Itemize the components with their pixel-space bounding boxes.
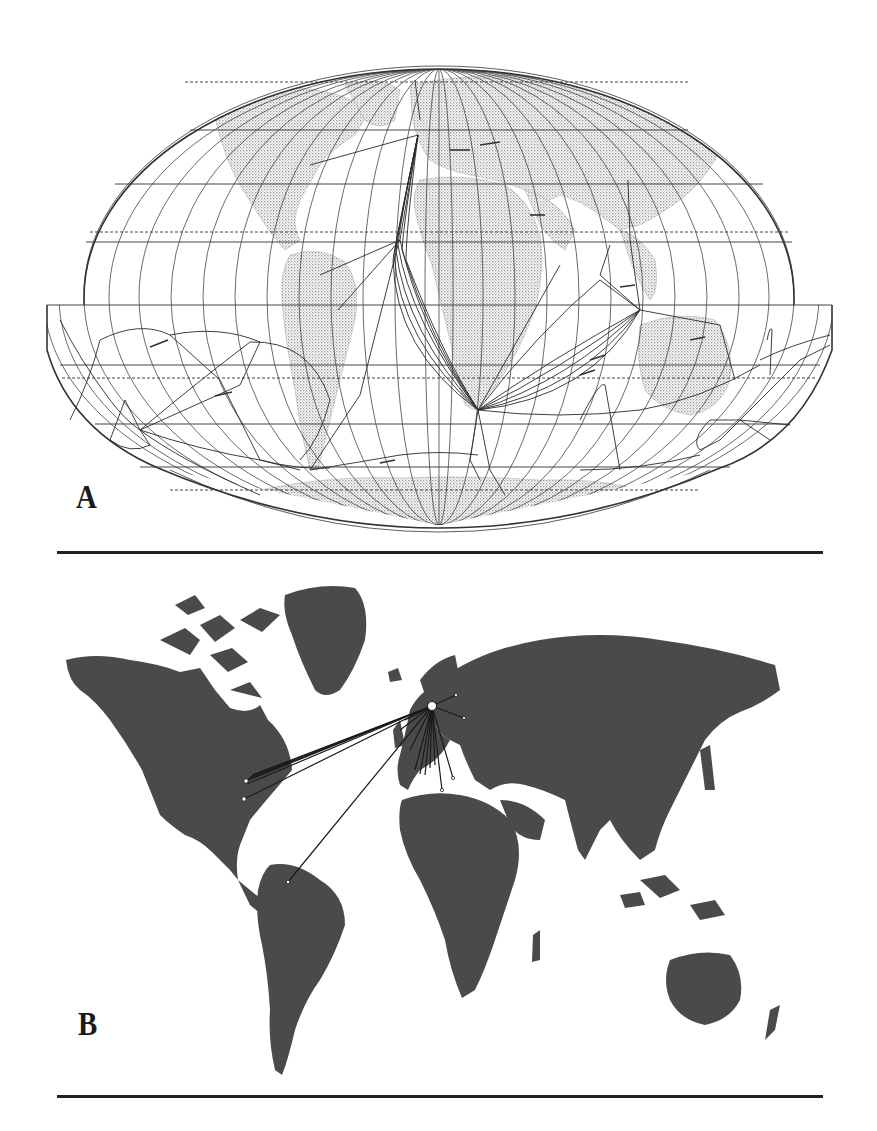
panel-label-a: A bbox=[76, 478, 97, 516]
land-masses bbox=[215, 75, 731, 528]
panel-label-b: B bbox=[78, 1005, 97, 1043]
panel-a: A bbox=[0, 0, 877, 560]
hub-marker bbox=[428, 702, 437, 711]
map-b bbox=[0, 560, 877, 1131]
panel-b: B bbox=[0, 560, 877, 1131]
divider-rule-b bbox=[57, 1095, 823, 1098]
graticule bbox=[44, 69, 834, 525]
land-masses-dark bbox=[66, 586, 780, 1075]
map-a-routes bbox=[0, 0, 877, 560]
divider-rule-a bbox=[57, 551, 823, 554]
